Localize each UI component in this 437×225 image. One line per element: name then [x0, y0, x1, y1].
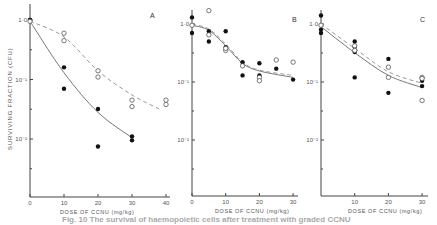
filled-data-point: [353, 75, 357, 79]
dashed-fit-curve: [30, 21, 159, 109]
filled-data-point: [386, 91, 390, 95]
open-data-point: [207, 8, 211, 12]
open-data-point: [190, 23, 194, 27]
filled-data-point: [420, 84, 424, 88]
open-data-point: [207, 33, 211, 37]
y-tick-label: 10⁻²: [177, 137, 189, 143]
open-data-point: [164, 98, 168, 102]
y-tick-label: 1·0: [18, 17, 27, 23]
panel-a: 1·010⁻¹10⁻²010203040DOSE OF CCNU (mg/kg)…: [15, 4, 170, 215]
axes: [30, 4, 170, 197]
x-axis-label: DOSE OF CCNU (mg/kg): [348, 208, 422, 214]
open-data-point: [28, 19, 32, 23]
open-data-point: [62, 31, 66, 35]
y-tick-label: 1·0: [180, 21, 189, 27]
filled-data-point: [353, 39, 357, 43]
open-data-point: [319, 23, 323, 27]
x-tick-label: 20: [256, 199, 263, 205]
open-data-point: [130, 104, 134, 108]
x-axis-label: DOSE OF CCNU (mg/kg): [215, 208, 289, 214]
filled-data-point: [62, 65, 66, 69]
filled-data-point: [96, 107, 100, 111]
panel-label: B: [292, 16, 297, 23]
open-data-point: [386, 65, 390, 69]
x-tick-label: 30: [290, 199, 297, 205]
x-tick-label: 0: [28, 200, 32, 206]
filled-data-point: [291, 77, 295, 81]
filled-data-point: [62, 87, 66, 91]
filled-data-point: [96, 144, 100, 148]
filled-data-point: [240, 73, 244, 77]
figure: 1·010⁻¹10⁻²010203040DOSE OF CCNU (mg/kg)…: [0, 0, 437, 225]
filled-data-point: [319, 31, 323, 35]
open-data-point: [257, 79, 261, 83]
solid-fit-curve: [30, 21, 132, 137]
x-tick-label: 40: [163, 200, 170, 206]
open-data-point: [96, 69, 100, 73]
y-tick-label: 10⁻²: [306, 137, 318, 143]
open-data-point: [224, 46, 228, 50]
open-data-point: [386, 75, 390, 79]
y-tick-label: 10⁻¹: [15, 77, 27, 83]
filled-data-point: [257, 61, 261, 65]
axes: [192, 10, 298, 196]
panel-c: 1·010⁻¹10⁻²102030DOSE OF CCNU (mg/kg)C: [306, 10, 428, 214]
figure-caption: Fig. 10 The survival of haemopoietic cel…: [62, 215, 437, 225]
open-data-point: [353, 44, 357, 48]
x-tick-label: 30: [129, 200, 136, 206]
x-tick-label: 0: [190, 199, 194, 205]
x-tick-label: 10: [351, 199, 358, 205]
filled-data-point: [207, 39, 211, 43]
filled-data-point: [190, 15, 194, 19]
filled-data-point: [130, 138, 134, 142]
x-tick-label: 10: [222, 199, 229, 205]
panel-b: 1·010⁻¹10⁻²0102030DOSE OF CCNU (mg/kg)B: [177, 8, 298, 214]
open-data-point: [291, 60, 295, 64]
open-data-point: [420, 98, 424, 102]
y-tick-label: 10⁻²: [15, 136, 27, 142]
y-tick-label: 10⁻¹: [306, 79, 318, 85]
open-data-point: [164, 102, 168, 106]
panel-label: A: [150, 12, 155, 19]
x-tick-label: 20: [385, 199, 392, 205]
open-data-point: [240, 64, 244, 68]
open-data-point: [353, 48, 357, 52]
open-data-point: [274, 58, 278, 62]
y-axis-label: SURVIVING FRACTION (CFU): [7, 48, 13, 150]
filled-data-point: [274, 66, 278, 70]
x-tick-label: 30: [419, 199, 426, 205]
open-data-point: [130, 98, 134, 102]
solid-fit-curve: [321, 27, 422, 88]
dashed-fit-curve: [321, 24, 422, 83]
open-data-point: [96, 75, 100, 79]
panel-label: C: [420, 16, 425, 23]
filled-data-point: [190, 31, 194, 35]
y-tick-label: 10⁻¹: [177, 79, 189, 85]
filled-data-point: [224, 29, 228, 33]
x-tick-label: 10: [61, 200, 68, 206]
open-data-point: [420, 76, 424, 80]
filled-data-point: [130, 134, 134, 138]
axes: [321, 10, 428, 196]
y-tick-label: 1·0: [309, 21, 318, 27]
filled-data-point: [319, 13, 323, 17]
open-data-point: [62, 38, 66, 42]
x-tick-label: 20: [95, 200, 102, 206]
filled-data-point: [386, 57, 390, 61]
